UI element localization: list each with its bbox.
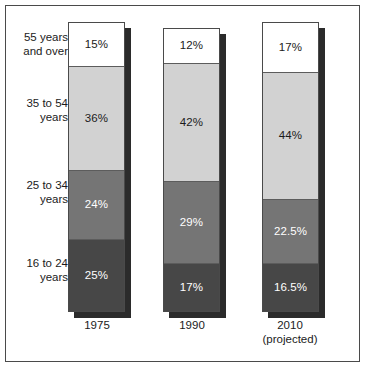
segment-value-label: 24% bbox=[85, 198, 108, 211]
category-label-25-to-34: 25 to 34 years bbox=[6, 178, 68, 206]
segment-value-label: 15% bbox=[85, 38, 108, 51]
category-label-16-to-24: 16 to 24 years bbox=[6, 256, 68, 284]
segment-1990-35-to-54[interactable]: 42% bbox=[164, 63, 219, 181]
bar-stack-1990[interactable]: 12% 42% 29% 17% bbox=[163, 28, 220, 312]
segment-value-label: 42% bbox=[180, 116, 203, 129]
segment-1975-16-to-24[interactable]: 25% bbox=[69, 239, 124, 311]
bar-stack-2010[interactable]: 17% 44% 22.5% 16.5% bbox=[262, 22, 319, 312]
segment-value-label: 17% bbox=[180, 281, 203, 294]
segment-1990-25-to-34[interactable]: 29% bbox=[164, 181, 219, 263]
x-axis-label-2010: 2010 (projected) bbox=[247, 318, 333, 346]
segment-value-label: 22.5% bbox=[274, 225, 307, 238]
segment-2010-16-to-24[interactable]: 16.5% bbox=[263, 263, 318, 311]
segment-2010-55-and-over[interactable]: 17% bbox=[263, 23, 318, 72]
category-label-55-and-over: 55 years and over bbox=[6, 30, 68, 58]
segment-2010-25-to-34[interactable]: 22.5% bbox=[263, 199, 318, 264]
stacked-bar-chart: 55 years and over 35 to 54 years 25 to 3… bbox=[0, 0, 367, 370]
segment-1975-55-and-over[interactable]: 15% bbox=[69, 23, 124, 66]
segment-1975-35-to-54[interactable]: 36% bbox=[69, 66, 124, 170]
bar-stack-1975[interactable]: 15% 36% 24% 25% bbox=[68, 22, 125, 312]
segment-1975-25-to-34[interactable]: 24% bbox=[69, 170, 124, 239]
segment-value-label: 12% bbox=[180, 39, 203, 52]
segment-1990-55-and-over[interactable]: 12% bbox=[164, 29, 219, 63]
x-axis-label-1975: 1975 bbox=[54, 318, 140, 332]
segment-1990-16-to-24[interactable]: 17% bbox=[164, 263, 219, 311]
segment-value-label: 25% bbox=[85, 269, 108, 282]
segment-value-label: 16.5% bbox=[274, 281, 307, 294]
segment-value-label: 29% bbox=[180, 216, 203, 229]
segment-value-label: 36% bbox=[85, 112, 108, 125]
x-axis-label-1990: 1990 bbox=[149, 318, 235, 332]
segment-value-label: 17% bbox=[279, 41, 302, 54]
segment-value-label: 44% bbox=[279, 129, 302, 142]
category-label-35-to-54: 35 to 54 years bbox=[6, 96, 68, 124]
chart-frame: 55 years and over 35 to 54 years 25 to 3… bbox=[5, 5, 360, 362]
segment-2010-35-to-54[interactable]: 44% bbox=[263, 72, 318, 199]
